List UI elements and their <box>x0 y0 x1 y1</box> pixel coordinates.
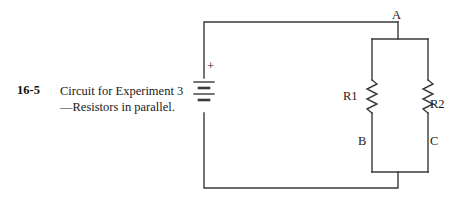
resistor-label-r2: R2 <box>430 97 445 112</box>
circuit-wires <box>194 22 433 188</box>
figure-page: 16-5 Circuit for Experiment 3—Resistors … <box>0 0 462 206</box>
node-label-c: C <box>430 134 438 149</box>
wire-top <box>204 22 398 78</box>
circuit-diagram <box>0 0 462 206</box>
wire-return <box>204 113 398 188</box>
resistor-label-r1: R1 <box>343 89 358 104</box>
circuit-svg <box>0 0 462 206</box>
node-label-a: A <box>392 8 401 23</box>
node-label-b: B <box>358 134 366 149</box>
battery-polarity-label: + <box>207 58 214 74</box>
resistor-r1-symbol <box>367 80 377 113</box>
